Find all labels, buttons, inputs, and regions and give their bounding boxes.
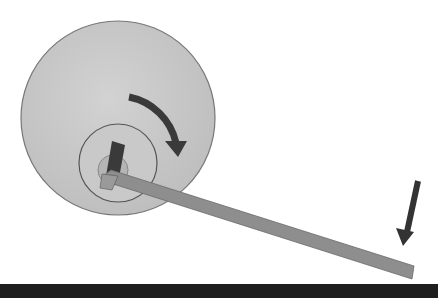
bottom-band: [0, 284, 438, 298]
pressure-arrow-icon: [396, 181, 418, 246]
lock-diagram: [0, 0, 438, 298]
tension-wrench-arm: [103, 170, 414, 279]
